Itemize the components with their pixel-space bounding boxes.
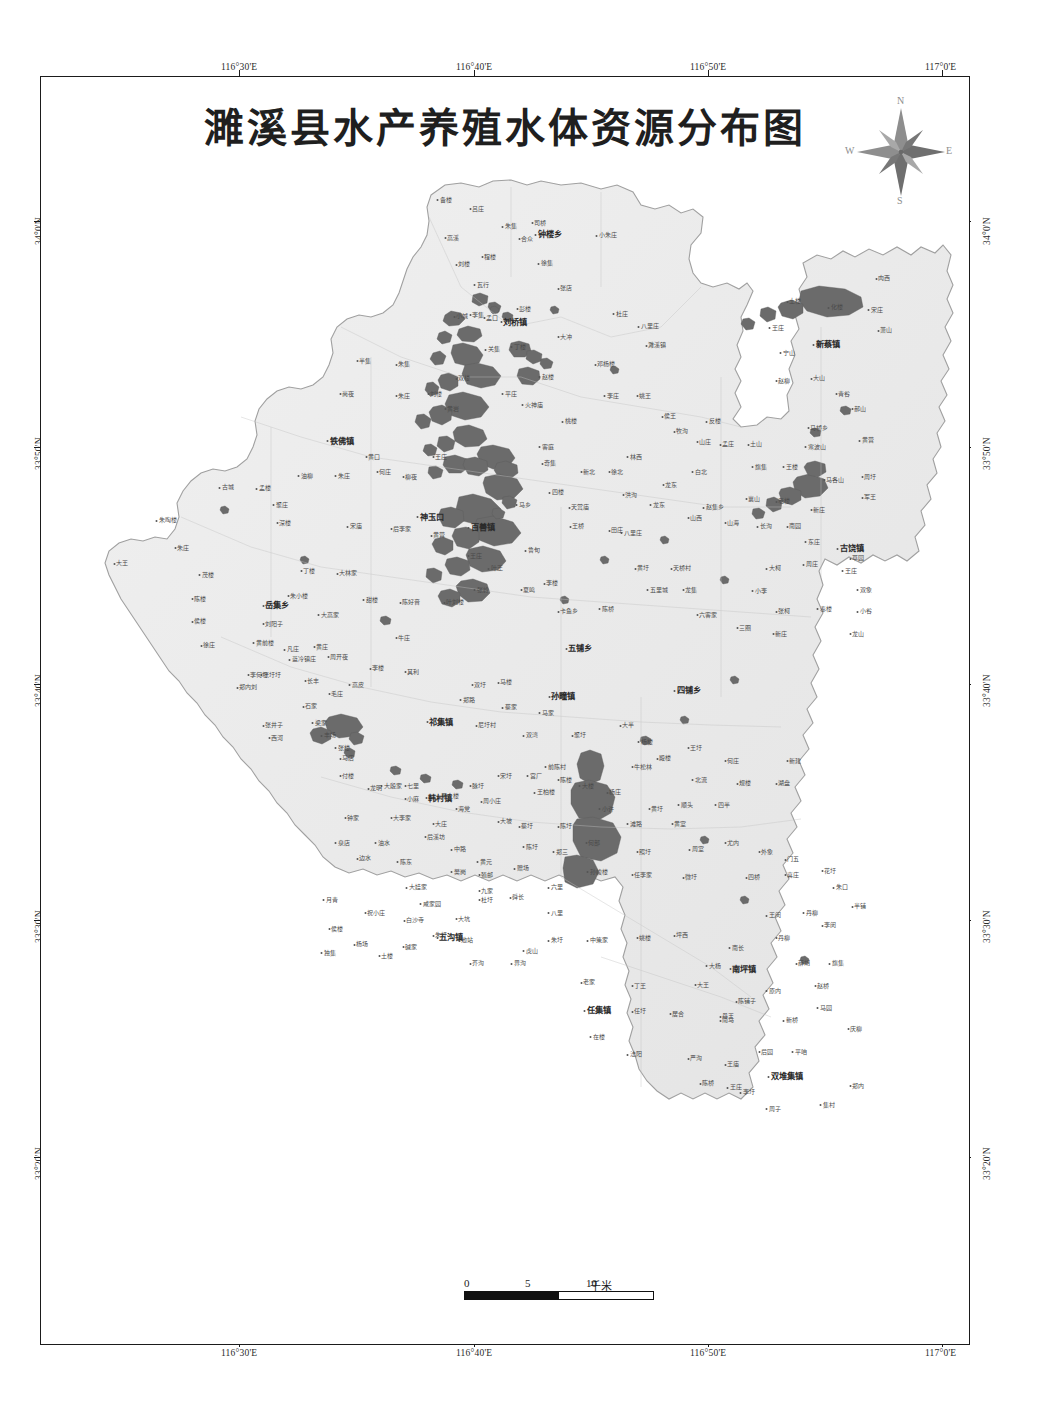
- village-label-text: 王柏楼: [537, 789, 555, 795]
- village-label-text: 刘楼: [430, 391, 442, 397]
- place-marker-icon: [397, 861, 399, 863]
- village-label: 古城: [219, 484, 234, 490]
- place-marker-icon: [783, 466, 785, 468]
- place-marker-icon: [478, 899, 480, 901]
- village-label-text: 南长: [732, 945, 744, 951]
- village-label: 白北: [692, 469, 707, 475]
- place-marker-icon: [474, 284, 476, 286]
- village-label-text: 殿楼: [659, 755, 671, 761]
- village-label-text: 新建: [789, 758, 801, 764]
- place-marker-icon: [469, 314, 471, 316]
- village-label: 襄山: [745, 496, 760, 502]
- place-marker-icon: [857, 611, 859, 613]
- village-label-text: 双楼: [458, 375, 470, 381]
- place-marker-icon: [335, 475, 337, 477]
- map-canvas[interactable]: 刘桥镇铁佛镇新蔡镇百善镇古饶镇祁集镇韩村镇任集镇南坪镇双堆集镇五沟镇孙疃镇钟楼乡…: [41, 77, 968, 1343]
- town-label: 钟楼乡: [535, 231, 562, 239]
- place-marker-icon: [395, 637, 397, 639]
- place-marker-icon: [775, 380, 777, 382]
- village-label: 任圩: [631, 1008, 646, 1014]
- village-label-text: 大高家: [321, 612, 339, 618]
- village-label: 朱小楼: [287, 593, 308, 599]
- village-label: 牛庄: [395, 635, 410, 641]
- place-marker-icon: [502, 393, 504, 395]
- village-label: 付楼: [339, 773, 354, 779]
- village-label-text: 四半: [718, 802, 730, 808]
- place-marker-icon: [769, 327, 771, 329]
- village-label-text: 海党: [458, 806, 470, 812]
- place-marker-icon: [395, 395, 397, 397]
- village-label-text: 九家: [481, 888, 493, 894]
- village-label-text: 大杨: [709, 963, 721, 969]
- village-label: 四楼: [549, 489, 564, 495]
- place-marker-icon: [443, 602, 445, 604]
- village-label-text: 虎山: [526, 948, 538, 954]
- village-label-text: 柳夜: [405, 474, 417, 480]
- village-label: 尤内: [724, 840, 739, 846]
- place-marker-icon: [604, 395, 606, 397]
- village-label-text: 张柯: [778, 608, 790, 614]
- village-label-text: 周子: [769, 1106, 781, 1112]
- village-label-text: 宫厂: [530, 773, 542, 779]
- village-label-text: 八里: [551, 910, 563, 916]
- town-label: 孙疃镇: [548, 693, 575, 701]
- village-label: 后园: [758, 1049, 773, 1055]
- village-label-text: 奇集: [544, 460, 556, 466]
- place-marker-icon: [829, 963, 831, 965]
- place-marker-icon: [236, 687, 238, 689]
- village-label-text: 照圩: [639, 849, 651, 855]
- village-label-text: 天赏庙: [571, 504, 589, 510]
- village-label-text: 李闵: [824, 922, 836, 928]
- village-label-text: 双象: [860, 587, 872, 593]
- place-marker-icon: [661, 416, 663, 418]
- town-label: 南坪镇: [729, 965, 756, 973]
- village-label-text: 任圩: [634, 1008, 646, 1014]
- village-label: 照圩: [636, 849, 651, 855]
- village-label-text: 卡鱼乡: [560, 608, 578, 614]
- town-label-text: 神玉口: [420, 512, 444, 521]
- village-label: 后溪坊: [424, 834, 445, 840]
- village-label-text: 东庄: [808, 539, 820, 545]
- place-marker-icon: [584, 1010, 586, 1012]
- village-label-text: 外象: [761, 849, 773, 855]
- village-label-text: 大李家: [393, 815, 411, 821]
- place-marker-icon: [404, 798, 406, 800]
- village-label-text: 大庄: [435, 821, 447, 827]
- place-marker-icon: [557, 779, 559, 781]
- place-marker-icon: [619, 725, 621, 727]
- village-label: 陈圩: [523, 844, 538, 850]
- village-label: 土楼: [786, 298, 801, 304]
- village-label-text: 平咱: [795, 1049, 807, 1055]
- place-marker-icon: [571, 735, 573, 737]
- place-marker-icon: [736, 627, 738, 629]
- village-label-text: 新庄: [813, 507, 825, 513]
- place-marker-icon: [775, 501, 777, 503]
- place-marker-icon: [636, 851, 638, 853]
- village-label-text: 周开夜: [330, 654, 348, 660]
- village-label: 丁楼: [300, 568, 315, 574]
- place-marker-icon: [857, 589, 859, 591]
- village-label-text: 侯楼: [194, 618, 206, 624]
- village-label: 湖盘: [775, 780, 790, 786]
- village-label: 叶王: [488, 565, 503, 571]
- village-label-text: 林西: [630, 454, 642, 460]
- village-label-text: 门五: [787, 856, 799, 862]
- town-label-text: 古饶镇: [840, 544, 864, 553]
- village-label-text: 王庄: [845, 568, 857, 574]
- place-marker-icon: [669, 1013, 671, 1015]
- village-label: 三圈: [736, 625, 751, 631]
- village-label: 老家: [580, 979, 595, 985]
- village-label-text: 原内: [769, 988, 781, 994]
- village-label: 规楼: [736, 780, 751, 786]
- village-label-text: 侯楼: [331, 926, 343, 932]
- village-label-text: 长丰: [307, 678, 319, 684]
- place-marker-icon: [724, 842, 726, 844]
- village-label: 瓦行: [474, 282, 489, 288]
- place-marker-icon: [792, 1051, 794, 1053]
- village-label: 何庄: [724, 758, 739, 764]
- village-label: 原内: [766, 988, 781, 994]
- village-label: 碱家: [402, 944, 417, 950]
- village-label: 军王: [861, 494, 876, 500]
- place-marker-icon: [328, 928, 330, 930]
- village-label: 周小庄: [480, 798, 501, 804]
